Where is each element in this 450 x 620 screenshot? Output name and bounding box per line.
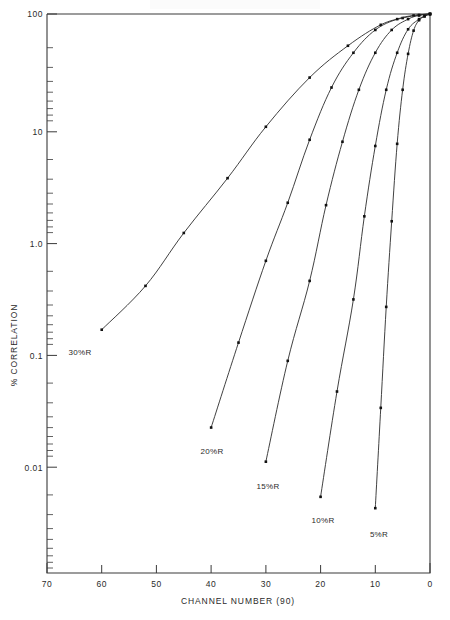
data-point bbox=[352, 298, 355, 301]
data-point bbox=[401, 88, 404, 91]
x-tick-label-10: 10 bbox=[370, 579, 380, 589]
data-point bbox=[358, 88, 361, 91]
data-point bbox=[418, 19, 421, 22]
data-point bbox=[374, 29, 377, 32]
data-point bbox=[144, 285, 147, 288]
data-point bbox=[418, 14, 421, 17]
data-point bbox=[286, 360, 289, 363]
data-point bbox=[308, 76, 311, 79]
data-point bbox=[374, 507, 377, 510]
correlation-vs-channel-number-chart: 100 10 1.0 0.1 0.01 % CORRELATION 70 60 … bbox=[0, 0, 450, 620]
data-point bbox=[396, 18, 399, 21]
data-point bbox=[319, 496, 322, 499]
data-point bbox=[286, 201, 289, 204]
data-point bbox=[308, 280, 311, 283]
data-point bbox=[390, 220, 393, 223]
series-label-15pct: 15%R bbox=[257, 482, 280, 491]
data-point bbox=[210, 426, 213, 429]
data-point bbox=[100, 328, 103, 331]
data-point bbox=[265, 460, 268, 463]
y-tick-label-10: 10 bbox=[33, 127, 43, 137]
series-label-5pct: 5%R bbox=[370, 530, 388, 539]
data-point bbox=[385, 88, 388, 91]
x-tick-label-60: 60 bbox=[96, 579, 106, 589]
data-point bbox=[325, 204, 328, 207]
series-label-10pct: 10%R bbox=[312, 516, 335, 525]
data-point bbox=[265, 260, 268, 263]
x-tick-label-70: 70 bbox=[42, 579, 52, 589]
x-tick-label-30: 30 bbox=[261, 579, 271, 589]
data-point bbox=[374, 145, 377, 148]
series-label-20pct: 20%R bbox=[201, 447, 224, 456]
data-point bbox=[352, 51, 355, 54]
y-tick-label-100: 100 bbox=[27, 9, 43, 19]
data-point bbox=[385, 306, 388, 309]
x-tick-label-40: 40 bbox=[206, 579, 216, 589]
data-point bbox=[423, 15, 426, 18]
data-point bbox=[379, 407, 382, 410]
data-point bbox=[429, 13, 432, 16]
data-point bbox=[265, 125, 268, 128]
series-label-30pct: 30%R bbox=[69, 348, 92, 357]
data-point bbox=[363, 215, 366, 218]
data-point bbox=[412, 29, 415, 32]
data-point bbox=[341, 140, 344, 143]
y-axis-title: % CORRELATION bbox=[9, 304, 19, 386]
data-point bbox=[308, 138, 311, 141]
chart-background bbox=[0, 0, 450, 620]
data-point bbox=[407, 18, 410, 21]
data-point bbox=[396, 143, 399, 146]
data-point bbox=[374, 51, 377, 54]
data-point bbox=[407, 53, 410, 56]
data-point bbox=[336, 390, 339, 393]
data-point bbox=[407, 28, 410, 31]
data-point bbox=[347, 44, 350, 47]
data-point bbox=[237, 341, 240, 344]
x-tick-label-50: 50 bbox=[151, 579, 161, 589]
data-point bbox=[330, 86, 333, 89]
x-tick-label-0: 0 bbox=[427, 579, 432, 589]
x-axis-title: CHANNEL NUMBER (90) bbox=[181, 596, 295, 606]
y-tick-label-0.1: 0.1 bbox=[30, 351, 43, 361]
y-tick-label-0.01: 0.01 bbox=[24, 463, 43, 473]
data-point bbox=[396, 51, 399, 54]
data-point bbox=[226, 177, 229, 180]
x-tick-label-20: 20 bbox=[315, 579, 325, 589]
data-point bbox=[390, 29, 393, 32]
data-point bbox=[182, 232, 185, 235]
y-tick-label-1: 1.0 bbox=[30, 239, 43, 249]
scan-artifact-top bbox=[150, 0, 320, 9]
